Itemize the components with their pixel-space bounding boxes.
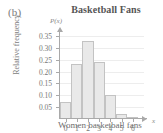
y-tick-label: 0.15	[39, 79, 52, 88]
bar	[82, 41, 93, 119]
y-tick-label: 0.30	[39, 43, 52, 52]
y-tick-label: 0.10	[39, 91, 52, 100]
gridline	[60, 36, 144, 37]
x-axis-title: Women basketball fans	[40, 120, 160, 130]
bar	[60, 102, 71, 119]
y-axis-title: Relative frequency	[12, 7, 21, 83]
y-tick-label: 0.25	[39, 55, 52, 64]
chart-figure: (b) Basketball Fans P(x) Relative freque…	[0, 0, 163, 133]
gridline	[60, 60, 144, 61]
y-tick-label: 0.35	[39, 31, 52, 40]
plot-area: 0.050.100.150.200.250.300.35 0123456 x	[60, 30, 138, 119]
chart-title: Basketball Fans	[50, 4, 162, 15]
bar	[94, 62, 105, 119]
gridline	[60, 48, 144, 49]
y-axis-arrow-icon	[57, 27, 63, 32]
y-tick-label: 0.20	[39, 67, 52, 76]
bar	[71, 64, 82, 119]
y-axis-symbol-label: P(x)	[50, 17, 62, 25]
x-axis-line	[59, 118, 147, 119]
y-axis-line	[59, 32, 60, 119]
y-tick-label: 0.05	[39, 103, 52, 112]
bar	[105, 95, 116, 119]
